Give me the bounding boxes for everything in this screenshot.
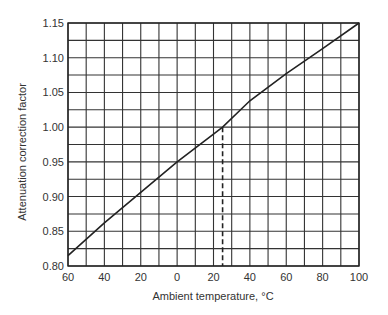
x-tick-label: 40: [98, 271, 110, 283]
y-axis-label: Attenuation correction factor: [16, 83, 28, 221]
y-tick-label: 1.15: [43, 17, 64, 29]
chart: 0.800.850.900.951.001.051.101.15 6040200…: [0, 0, 388, 315]
x-tick-label: 20: [135, 271, 147, 283]
y-tick-label: 0.95: [43, 156, 64, 168]
x-tick-label: 40: [244, 271, 256, 283]
y-axis-ticks: 0.800.850.900.951.001.051.101.15: [43, 17, 64, 272]
y-tick-label: 1.10: [43, 52, 64, 64]
x-axis-ticks: 604020020406080100: [62, 271, 368, 283]
x-tick-label: 100: [350, 271, 368, 283]
y-tick-label: 0.85: [43, 225, 64, 237]
x-tick-label: 20: [207, 271, 219, 283]
y-tick-label: 1.05: [43, 86, 64, 98]
y-tick-label: 0.80: [43, 260, 64, 272]
x-tick-label: 80: [317, 271, 329, 283]
y-tick-label: 1.00: [43, 121, 64, 133]
x-axis-label: Ambient temperature, °C: [152, 290, 273, 302]
x-tick-label: 60: [280, 271, 292, 283]
x-tick-label: 0: [174, 271, 180, 283]
grid-lines: [68, 23, 359, 266]
y-tick-label: 0.90: [43, 191, 64, 203]
x-tick-label: 60: [62, 271, 74, 283]
